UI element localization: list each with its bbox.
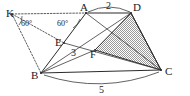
segment-ka-dotted — [12, 13, 86, 14]
measure-label-eb: 3 — [71, 47, 76, 58]
vertex-label-d: D — [133, 1, 141, 13]
vertex-label-f: F — [90, 48, 96, 60]
measure-label-ad: 2 — [106, 0, 111, 11]
vertex-label-e: E — [55, 36, 62, 48]
vertex-dot-c — [160, 69, 162, 71]
angle-label-k: 60° — [21, 19, 32, 28]
shaded-triangle-dfc — [95, 13, 161, 70]
vertex-label-b: B — [31, 69, 38, 81]
angle-arc-a — [73, 19, 80, 28]
geometry-figure: K A D E F B C 2 3 5 60° 60° — [0, 0, 190, 96]
arc-below-bc — [44, 72, 159, 84]
angle-label-a: 60° — [57, 19, 68, 28]
vertex-label-c: C — [165, 65, 172, 77]
segment-bc — [41, 70, 161, 73]
vertex-label-k: K — [6, 7, 14, 19]
vertex-dot-b — [40, 72, 42, 74]
geometry-canvas: K A D E F B C 2 3 5 60° 60° — [0, 0, 190, 96]
vertex-label-a: A — [80, 1, 88, 13]
vertex-dot-e — [63, 42, 65, 44]
measure-label-bc: 5 — [99, 84, 104, 95]
vertex-dot-d — [130, 12, 132, 14]
